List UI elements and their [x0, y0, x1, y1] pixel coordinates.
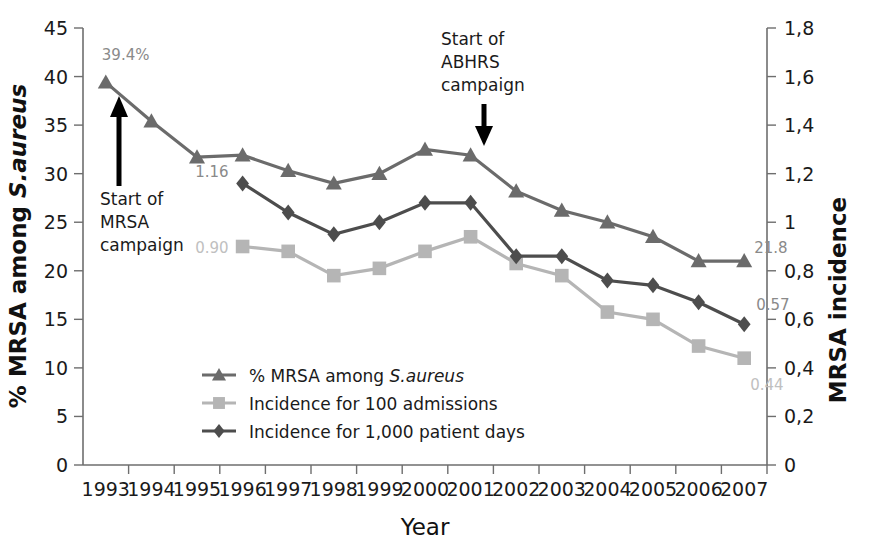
x-tick-label: 2007	[720, 478, 768, 500]
data-point-marker	[646, 313, 660, 327]
data-point-label: 21.8	[754, 239, 787, 257]
x-tick-label: 2004	[583, 478, 631, 500]
data-point-marker	[737, 351, 751, 365]
x-tick-label: 1998	[310, 478, 358, 500]
annotation-abhrs-campaign: Start of ABHRS campaign	[441, 29, 525, 146]
left-axis-title: % MRSA among S.aureus	[5, 84, 31, 408]
legend-item[interactable]: % MRSA among S.aureus	[202, 366, 464, 386]
x-tick-label: 1996	[218, 478, 266, 500]
left-axis-ticks: 051015202530354045	[44, 17, 83, 476]
data-point-marker	[98, 74, 114, 88]
data-point-label: 39.4%	[102, 46, 150, 64]
x-tick-label: 1993	[82, 478, 130, 500]
right-tick-label: 1,8	[784, 17, 814, 39]
right-tick-label: 0	[784, 454, 796, 476]
right-tick-label: 1	[784, 211, 796, 233]
left-tick-label: 45	[44, 17, 68, 39]
data-point-marker	[555, 248, 568, 264]
chart-legend: % MRSA among S.aureusIncidence for 100 a…	[202, 366, 525, 442]
left-tick-label: 30	[44, 163, 68, 185]
right-tick-label: 0,8	[784, 260, 814, 282]
right-tick-label: 0,2	[784, 405, 814, 427]
right-tick-label: 1,6	[784, 66, 814, 88]
legend-label: Incidence for 100 admissions	[249, 394, 498, 414]
data-point-marker	[692, 339, 706, 353]
x-tick-label: 1999	[355, 478, 403, 500]
right-tick-label: 1,4	[784, 114, 814, 136]
right-tick-label: 0,4	[784, 357, 814, 379]
left-tick-label: 25	[44, 211, 68, 233]
x-axis: 1993199419951996199719981999200020012002…	[82, 465, 769, 540]
data-point-marker	[418, 245, 432, 259]
legend-label: % MRSA among S.aureus	[249, 366, 464, 386]
left-axis-title-plain: % MRSA among	[5, 198, 31, 408]
left-tick-label: 5	[56, 405, 68, 427]
abhrs-arrow-head	[475, 126, 493, 146]
left-tick-label: 0	[56, 454, 68, 476]
x-tick-label: 1994	[127, 478, 175, 500]
legend-marker	[213, 424, 224, 438]
data-point-marker	[601, 272, 614, 288]
abhrs-annot-line-1: ABHRS	[441, 52, 500, 72]
data-point-marker	[601, 305, 615, 319]
series-diamond	[236, 175, 750, 332]
right-tick-label: 1,2	[784, 163, 814, 185]
data-point-marker	[282, 205, 295, 221]
data-point-marker	[281, 245, 295, 259]
data-point-marker	[371, 166, 387, 180]
x-tick-label: 1995	[173, 478, 221, 500]
abhrs-annot-line-0: Start of	[441, 29, 505, 49]
data-point-label: 1.16	[195, 163, 228, 181]
legend-item[interactable]: Incidence for 1,000 patient days	[202, 422, 525, 442]
mrsa-annot-line-2: campaign	[100, 235, 184, 255]
left-tick-label: 20	[44, 260, 68, 282]
x-tick-label: 2006	[674, 478, 722, 500]
series-line	[243, 237, 745, 358]
chart-svg: 051015202530354045 % MRSA among S.aureus…	[0, 0, 870, 560]
left-tick-label: 10	[44, 357, 68, 379]
legend-marker	[213, 397, 225, 409]
left-axis-title-italic: S.aureus	[5, 84, 31, 198]
data-point-marker	[555, 269, 569, 283]
x-tick-label: 2000	[401, 478, 449, 500]
abhrs-annot-line-2: campaign	[441, 75, 525, 95]
x-tick-label: 2001	[446, 478, 494, 500]
x-axis-ticks: 1993199419951996199719981999200020012002…	[82, 465, 769, 500]
mrsa-annot-line-1: MRSA	[100, 212, 150, 232]
data-point-label: 0.44	[750, 376, 783, 394]
x-tick-label: 2002	[492, 478, 540, 500]
data-point-label: 0.90	[195, 239, 228, 257]
left-tick-label: 40	[44, 66, 68, 88]
left-tick-label: 15	[44, 308, 68, 330]
data-point-marker	[373, 262, 387, 276]
data-point-marker	[236, 240, 250, 254]
data-point-marker	[647, 277, 660, 293]
mrsa-annot-line-0: Start of	[100, 189, 164, 209]
data-point-marker	[738, 316, 751, 332]
x-axis-title: Year	[400, 514, 450, 540]
series-layer	[98, 74, 752, 365]
left-axis: 051015202530354045 % MRSA among S.aureus	[5, 17, 83, 476]
mrsa-trend-chart: 051015202530354045 % MRSA among S.aureus…	[0, 0, 870, 560]
data-point-marker	[327, 269, 341, 283]
data-point-marker	[464, 230, 478, 244]
data-point-marker	[419, 195, 432, 211]
point-label-layer: 39.4%21.81.160.570.900.44	[102, 46, 790, 394]
data-point-marker	[236, 175, 249, 191]
annotation-mrsa-campaign: Start of MRSA campaign	[100, 96, 184, 255]
legend-label: Incidence for 1,000 patient days	[249, 422, 525, 442]
data-point-label: 0.57	[756, 296, 789, 314]
series-line	[243, 183, 745, 324]
left-tick-label: 35	[44, 114, 68, 136]
legend-item[interactable]: Incidence for 100 admissions	[202, 394, 498, 414]
data-point-marker	[327, 226, 340, 242]
x-tick-label: 2003	[538, 478, 586, 500]
series-square	[236, 230, 751, 365]
right-axis-title: MRSA incidence	[825, 197, 851, 403]
x-tick-label: 1997	[264, 478, 312, 500]
data-point-marker	[692, 294, 705, 310]
data-point-marker	[373, 214, 386, 230]
x-tick-label: 2005	[629, 478, 677, 500]
